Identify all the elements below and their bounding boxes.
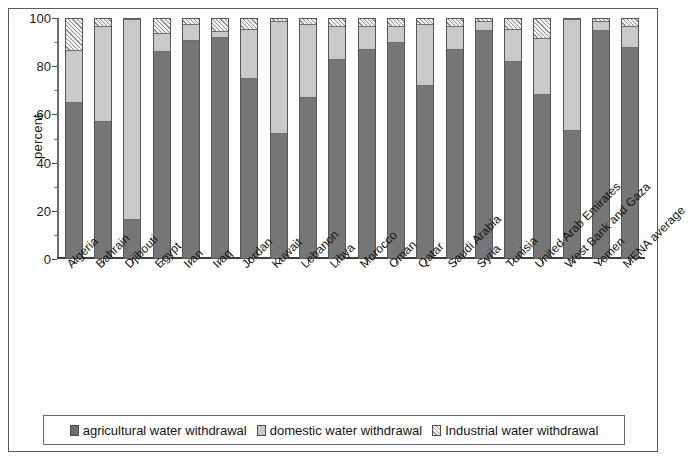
bar-segment-agricultural bbox=[241, 79, 257, 258]
legend-swatch-icon bbox=[257, 425, 266, 436]
bar-segment-industrial bbox=[534, 19, 550, 38]
bar-segment-domestic bbox=[593, 21, 609, 31]
bar-slot bbox=[440, 18, 469, 259]
bar-segment-agricultural bbox=[300, 98, 316, 258]
y-tick-label: 20 bbox=[37, 203, 51, 218]
stacked-bar[interactable] bbox=[94, 18, 112, 259]
bar-segment-agricultural bbox=[154, 52, 170, 258]
bar-segment-domestic bbox=[534, 38, 550, 95]
bar-slot bbox=[352, 18, 381, 259]
legend-label: agricultural water withdrawal bbox=[83, 423, 247, 438]
bar-segment-domestic bbox=[271, 21, 287, 133]
stacked-bar[interactable] bbox=[182, 18, 200, 259]
y-tick-mark bbox=[52, 66, 57, 67]
legend-swatch-icon bbox=[432, 425, 441, 436]
stacked-bar[interactable] bbox=[270, 18, 288, 259]
bar-slot bbox=[293, 18, 322, 259]
bar-segment-industrial bbox=[622, 19, 638, 26]
stacked-bar[interactable] bbox=[328, 18, 346, 259]
stacked-bar[interactable] bbox=[123, 18, 141, 259]
bar-segment-domestic bbox=[66, 50, 82, 103]
bar-segment-domestic bbox=[622, 26, 638, 48]
bar-segment-agricultural bbox=[183, 41, 199, 258]
bar-segment-domestic bbox=[95, 26, 111, 122]
bar-segment-domestic bbox=[447, 26, 463, 50]
stacked-bar[interactable] bbox=[358, 18, 376, 259]
bar-segment-domestic bbox=[183, 24, 199, 41]
bar-segment-industrial bbox=[388, 19, 404, 26]
stacked-bar[interactable] bbox=[533, 18, 551, 259]
legend-item[interactable]: Industrial water withdrawal bbox=[432, 423, 598, 438]
y-tick-minor bbox=[54, 139, 57, 140]
stacked-bar[interactable] bbox=[240, 18, 258, 259]
stacked-bar[interactable] bbox=[446, 18, 464, 259]
bar-segment-industrial bbox=[241, 19, 257, 29]
legend-label: domestic water withdrawal bbox=[270, 423, 422, 438]
bar-segment-industrial bbox=[212, 19, 228, 31]
y-tick-mark bbox=[52, 163, 57, 164]
bar-slot bbox=[323, 18, 352, 259]
bar-segment-agricultural bbox=[417, 86, 433, 258]
plot-area: 020406080100 bbox=[57, 18, 645, 259]
y-axis-title: percent bbox=[30, 87, 45, 187]
bar-segment-domestic bbox=[505, 29, 521, 62]
stacked-bar[interactable] bbox=[153, 18, 171, 259]
bar-segment-domestic bbox=[124, 19, 140, 220]
y-tick-label: 0 bbox=[44, 252, 51, 267]
chart-area: percent 020406080100 AlgeriaBahrainDjibo… bbox=[9, 9, 659, 409]
bar-segment-industrial bbox=[95, 19, 111, 26]
bar-segment-industrial bbox=[154, 19, 170, 33]
bar-segment-agricultural bbox=[212, 38, 228, 258]
y-tick-minor bbox=[54, 235, 57, 236]
bar-slot bbox=[118, 18, 147, 259]
bar-segment-industrial bbox=[359, 19, 375, 26]
y-tick-mark bbox=[52, 18, 57, 19]
bar-segment-domestic bbox=[417, 24, 433, 86]
bar-segment-agricultural bbox=[505, 62, 521, 258]
bar-slot bbox=[411, 18, 440, 259]
stacked-bar[interactable] bbox=[211, 18, 229, 259]
y-tick-label: 60 bbox=[37, 107, 51, 122]
figure-frame: percent 020406080100 AlgeriaBahrainDjibo… bbox=[8, 8, 658, 452]
y-tick-mark bbox=[52, 114, 57, 115]
bar-segment-industrial bbox=[447, 19, 463, 26]
y-tick-label: 80 bbox=[37, 59, 51, 74]
bar-segment-industrial bbox=[66, 19, 82, 50]
bar-segment-domestic bbox=[388, 26, 404, 43]
stacked-bar[interactable] bbox=[416, 18, 434, 259]
bar-segment-industrial bbox=[329, 19, 345, 26]
bar-segment-agricultural bbox=[271, 134, 287, 258]
bar-segment-domestic bbox=[564, 19, 580, 131]
legend-swatch-icon bbox=[70, 425, 79, 436]
bar-segment-domestic bbox=[359, 26, 375, 50]
bar-segment-domestic bbox=[154, 33, 170, 52]
bar-segment-agricultural bbox=[66, 103, 82, 258]
stacked-bar[interactable] bbox=[387, 18, 405, 259]
bar-slot bbox=[88, 18, 117, 259]
x-axis-labels: AlgeriaBahrainDjiboutiEgyptIranIraqJorda… bbox=[57, 261, 657, 401]
stacked-bar[interactable] bbox=[504, 18, 522, 259]
chart-legend: agricultural water withdrawaldomestic wa… bbox=[43, 415, 625, 445]
bar-slot bbox=[176, 18, 205, 259]
y-tick-label: 100 bbox=[29, 11, 51, 26]
bar-slot bbox=[264, 18, 293, 259]
bar-slot bbox=[147, 18, 176, 259]
bar-slot bbox=[616, 18, 645, 259]
y-tick-minor bbox=[54, 42, 57, 43]
y-tick-minor bbox=[54, 187, 57, 188]
bar-segment-agricultural bbox=[359, 50, 375, 258]
bar-slot bbox=[205, 18, 234, 259]
legend-item[interactable]: agricultural water withdrawal bbox=[70, 423, 247, 438]
stacked-bar[interactable] bbox=[299, 18, 317, 259]
bar-segment-domestic bbox=[329, 26, 345, 59]
y-tick-minor bbox=[54, 90, 57, 91]
bar-segment-agricultural bbox=[534, 95, 550, 258]
legend-label: Industrial water withdrawal bbox=[445, 423, 598, 438]
stacked-bar[interactable] bbox=[65, 18, 83, 259]
legend-item[interactable]: domestic water withdrawal bbox=[257, 423, 422, 438]
bar-segment-domestic bbox=[241, 29, 257, 79]
bar-segment-domestic bbox=[300, 24, 316, 98]
bar-slot bbox=[59, 18, 88, 259]
stacked-bar[interactable] bbox=[621, 18, 639, 259]
bar-segment-domestic bbox=[476, 21, 492, 31]
